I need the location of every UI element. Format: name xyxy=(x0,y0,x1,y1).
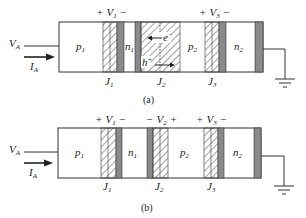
dark-bar xyxy=(117,22,124,72)
dark-bar xyxy=(147,128,153,178)
anode-voltage-label: VA xyxy=(9,37,21,51)
junction-j1-label: J1 xyxy=(103,180,111,194)
ground-icon xyxy=(275,79,295,87)
cathode-wire xyxy=(261,156,284,186)
junction-j1-label: J1 xyxy=(105,75,113,89)
voltage-v2-label: −V2+ xyxy=(146,113,177,127)
voltage-v3-label: +V3− xyxy=(196,113,227,127)
anode-voltage-label: VA xyxy=(9,143,21,157)
anode-current-label: IA xyxy=(28,166,38,180)
dark-bar xyxy=(116,128,122,178)
thyristor-diagram: VA IA e− h+ p1 n1 p2 n2 +V1− +V3− xyxy=(0,0,306,218)
dark-bar xyxy=(218,128,224,178)
junction-j2-label: J2 xyxy=(155,180,164,194)
dark-bar xyxy=(255,22,263,72)
dark-bar xyxy=(135,22,141,72)
voltage-v3-label: +V3− xyxy=(199,6,230,20)
panel-a: VA IA e− h+ p1 n1 p2 n2 +V1− +V3− xyxy=(9,6,295,106)
junction-j2-label: J2 xyxy=(157,75,166,89)
dark-bar xyxy=(254,128,261,178)
junction-j3-label: J3 xyxy=(208,75,217,89)
dark-bar xyxy=(219,22,226,72)
caption-b: (b) xyxy=(141,202,153,214)
cathode-wire xyxy=(263,49,285,79)
junction-j3-label: J3 xyxy=(207,180,216,194)
panel-b: VA IA p1 n1 p2 n2 +V1− −V2+ +V3− J1 J2 J… xyxy=(9,113,294,214)
voltage-v1-label: +V1− xyxy=(96,6,127,20)
junction-j1-depletion xyxy=(101,128,116,178)
ground-icon xyxy=(274,186,294,194)
caption-a: (a) xyxy=(143,94,154,106)
junction-j2-depletion xyxy=(153,128,168,178)
voltage-v1-label: +V1− xyxy=(95,113,126,127)
anode-current-label: IA xyxy=(29,60,39,74)
current-arrow-icon xyxy=(46,54,55,61)
current-arrow-icon xyxy=(44,160,53,167)
